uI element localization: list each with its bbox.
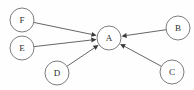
node-a[interactable]: A [97,26,121,50]
arrowhead-e-to-a [91,38,96,43]
node-label-f: F [19,15,24,25]
edge-f-to-a [34,22,92,34]
arrowhead-d-to-a [93,45,99,50]
node-f[interactable]: F [10,8,34,32]
node-label-a: A [106,33,113,43]
node-label-d: D [54,68,61,78]
node-label-b: B [175,23,181,33]
node-label-e: E [19,43,25,53]
edge-e-to-a [34,40,91,47]
edge-d-to-a [67,48,94,66]
node-e[interactable]: E [10,36,34,60]
graph-canvas: FEDABC [0,0,194,90]
edge-c-to-a [125,46,162,66]
arrowhead-f-to-a [91,32,97,37]
edge-b-to-a [127,30,166,36]
graph-diagram: FEDABC [0,0,194,90]
node-c[interactable]: C [160,60,184,84]
node-label-c: C [169,67,175,77]
node-b[interactable]: B [166,16,190,40]
arrowhead-b-to-a [121,33,127,38]
node-d[interactable]: D [45,61,69,85]
